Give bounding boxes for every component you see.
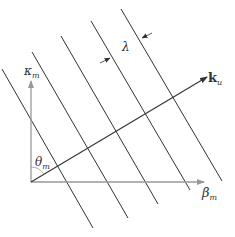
wavefront-line-2: [32, 52, 128, 218]
wavefront-line-5: [121, 9, 222, 181]
wavefronts: [2, 9, 222, 228]
wavefront-diagram: λ ku κm θm βm: [0, 0, 235, 237]
wavefront-line-3: [61, 36, 158, 204]
k-vector: [31, 77, 207, 182]
kappa-label: κm: [23, 64, 40, 80]
theta-label: θm: [35, 155, 50, 171]
lambda-arrow-right: [142, 33, 152, 38]
beta-label: βm: [201, 185, 218, 202]
lambda-arrow-left: [100, 58, 110, 63]
k-label: ku: [208, 70, 222, 87]
wavefront-line-1: [2, 69, 93, 228]
wavefront-line-4: [91, 21, 190, 190]
diagram-svg: λ ku κm θm βm: [0, 0, 235, 237]
lambda-label: λ: [121, 40, 130, 54]
